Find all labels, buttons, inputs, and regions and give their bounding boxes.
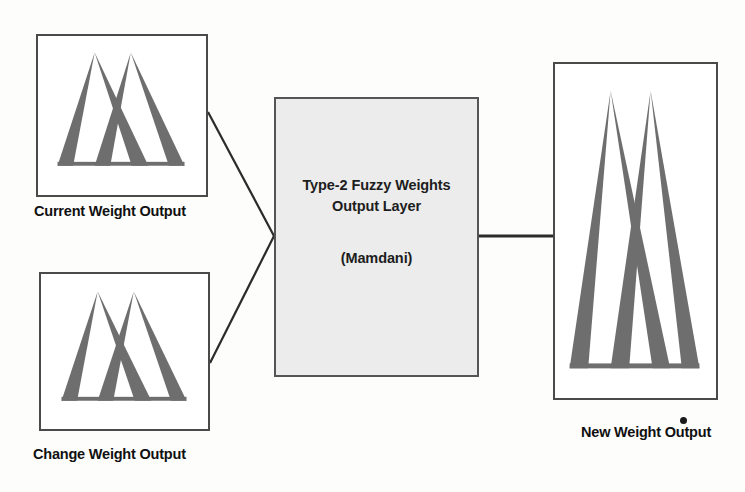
caption-new-weight-output: New Weight Output [581, 424, 711, 440]
diagram-canvas: Current Weight Output Change Weight Outp… [0, 0, 745, 492]
process-title: Type-2 Fuzzy Weights Output Layer [302, 175, 450, 216]
type2-fuzzy-weights-output-layer-box: Type-2 Fuzzy Weights Output Layer (Mamda… [274, 97, 479, 377]
connector-change-to-process [210, 236, 274, 363]
membership-function-graphic-new [555, 64, 716, 398]
process-title-line-1: Type-2 Fuzzy Weights [302, 177, 450, 193]
caption-current-weight-output: Current Weight Output [34, 203, 186, 219]
current-weight-output-box [36, 34, 208, 197]
membership-function-graphic-current [38, 36, 206, 195]
connector-current-to-process [208, 112, 274, 236]
new-weight-output-box [553, 62, 718, 400]
caption-change-weight-output: Change Weight Output [33, 446, 186, 462]
scan-artifact-dot [680, 417, 687, 424]
process-subtitle: (Mamdani) [341, 250, 413, 266]
change-weight-output-box [39, 272, 210, 431]
membership-function-graphic-change [41, 274, 208, 429]
process-title-line-2: Output Layer [332, 198, 421, 214]
